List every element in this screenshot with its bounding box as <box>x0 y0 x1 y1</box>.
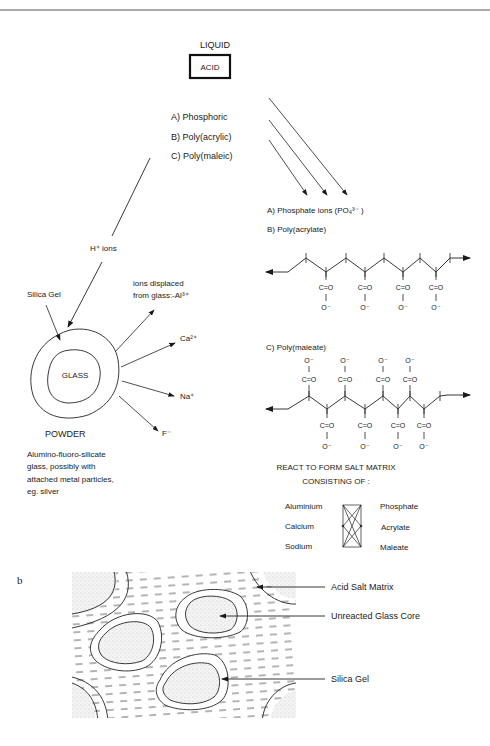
powder-label: POWDER <box>45 429 86 439</box>
product-maleate: C) Poly(maleate) <box>266 343 326 352</box>
callout-unreacted-glass-core: Unreacted Glass Core <box>331 611 420 621</box>
oxide-ion: O⁻ <box>431 304 440 311</box>
arrow-na <box>122 381 174 396</box>
polymer-backbone <box>268 395 460 409</box>
h-ions-label: H⁺ ions <box>90 244 117 253</box>
carboxyl-group: C=O <box>319 284 334 291</box>
powder-description: glass, possibly with <box>27 462 95 471</box>
oxide-ion: O⁻ <box>340 357 349 364</box>
crosslink-icon <box>342 505 362 547</box>
cation-item: Sodium <box>285 542 312 551</box>
panel-b-label: b <box>17 574 23 586</box>
oxide-ion: O⁻ <box>398 304 407 311</box>
silica-gel-label: Silica Gel <box>27 290 61 299</box>
acid-item: B) Poly(acrylic) <box>171 132 232 142</box>
cation-item: Calcium <box>285 522 314 531</box>
carboxyl-group: C=O <box>358 422 373 429</box>
micrograph-panel <box>72 565 296 725</box>
ion-na: Na⁺ <box>180 392 194 401</box>
arrow-ca <box>121 343 175 367</box>
oxide-ion: O⁻ <box>304 357 313 364</box>
liquid-label: LIQUID <box>200 40 231 50</box>
carboxyl-group: C=O <box>429 284 444 291</box>
product-acrylate: B) Poly(acrylate) <box>267 225 326 234</box>
salt-matrix-title: REACT TO FORM SALT MATRIX <box>276 463 396 472</box>
callout-silica-gel: Silica Gel <box>331 674 369 684</box>
carboxyl-group: C=O <box>338 376 353 383</box>
arrow-phosphoric <box>269 98 347 195</box>
powder-description: eg. silver <box>27 487 59 496</box>
oxide-ion: O⁻ <box>321 304 330 311</box>
ion-ca: Ca²⁺ <box>180 334 197 343</box>
carboxyl-group: C=O <box>396 284 411 291</box>
acrylate-chain: C=OO⁻C=OO⁻C=OO⁻C=OO⁻ <box>266 253 470 311</box>
carboxyl-group: C=O <box>358 284 373 291</box>
acid-item: A) Phosphoric <box>171 112 228 122</box>
anion-item: Acrylate <box>381 523 410 532</box>
carboxyl-group: C=O <box>417 422 432 429</box>
oxide-ion: O⁻ <box>360 304 369 311</box>
arrow-acrylic <box>269 120 327 195</box>
acid-item: C) Poly(maleic) <box>171 151 233 161</box>
glass-label: GLASS <box>62 371 89 380</box>
arrow-maleic <box>269 140 307 195</box>
polymer-backbone <box>268 258 460 272</box>
callout-acid-salt-matrix: Acid Salt Matrix <box>331 582 394 592</box>
oxide-ion: O⁻ <box>322 443 331 450</box>
arrow-al <box>115 310 154 352</box>
displaced-ions-label: ions displaced <box>133 279 184 288</box>
powder-description: attached metal particles, <box>27 475 114 484</box>
arrow-f <box>119 396 158 431</box>
oxide-ion: O⁻ <box>419 443 428 450</box>
h-ions-line-lower <box>68 262 102 327</box>
carboxyl-group: C=O <box>320 422 335 429</box>
cation-item: Aluminium <box>285 502 323 511</box>
carboxyl-group: C=O <box>302 376 317 383</box>
carboxyl-group: C=O <box>376 376 391 383</box>
carboxyl-group: C=O <box>391 422 406 429</box>
anion-item: Phosphate <box>380 502 419 511</box>
product-phosphate: A) Phosphate ions (PO₄³⁻ ) <box>267 206 364 215</box>
h-ions-line-upper <box>112 158 150 236</box>
ion-f: F⁻ <box>162 429 171 438</box>
carboxyl-group: C=O <box>403 376 418 383</box>
oxide-ion: O⁻ <box>405 357 414 364</box>
maleate-chain: O⁻C=OO⁻C=OO⁻C=OO⁻C=OC=OO⁻C=OO⁻C=OO⁻C=OO⁻ <box>266 357 470 450</box>
powder-description: Alumino-fluoro-silicate <box>27 450 106 459</box>
anion-item: Maleate <box>380 543 409 552</box>
oxide-ion: O⁻ <box>393 443 402 450</box>
diagram-canvas: LIQUID ACID A) Phosphoric B) Poly(acryli… <box>0 0 490 746</box>
displaced-ions-label: from glass:-Al³⁺ <box>133 291 189 300</box>
acid-label: ACID <box>200 63 219 72</box>
oxide-ion: O⁻ <box>378 357 387 364</box>
oxide-ion: O⁻ <box>360 443 369 450</box>
salt-matrix-subtitle: CONSISTING OF : <box>302 477 370 486</box>
